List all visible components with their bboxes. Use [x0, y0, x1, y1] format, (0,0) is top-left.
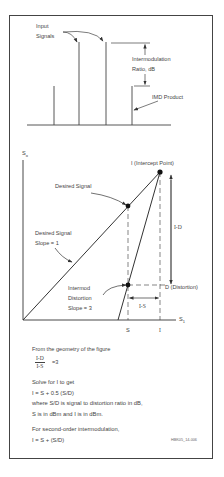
intermod-label-3: Slope = 3	[68, 305, 92, 312]
fraction-equals: =3	[52, 359, 58, 366]
geometry-text: From the geometry of the figure	[32, 346, 110, 353]
fraction-numerator: I-D	[35, 355, 45, 363]
input-signals-arrow-1	[63, 32, 77, 42]
x-tick-i: I	[159, 327, 161, 334]
input-signals-label-2: Signals	[36, 33, 54, 40]
ratio-label-2: Ratio, dB	[132, 66, 155, 73]
slope1-callout	[55, 248, 72, 262]
desired-signal-callout	[91, 193, 126, 205]
intermod-label: Intermod	[68, 285, 90, 292]
figure-code: HBK05_14-006	[171, 438, 197, 442]
formula-second-order: I = S + (S/D)	[32, 435, 64, 446]
spectrum-plot	[27, 31, 171, 125]
i-minus-s-label: I-S	[139, 303, 146, 310]
x-axis-label: S1	[179, 316, 185, 325]
x-tick-s: S	[126, 327, 130, 334]
second-order-text: For second-order intermodulation,	[32, 424, 119, 435]
desired-signal-label: Desired Signal	[55, 183, 91, 190]
intermod-label-2: Distortion	[68, 295, 92, 302]
solve-text: Solve for I to get	[32, 377, 74, 388]
imd-product-label: IMD Product	[152, 94, 183, 101]
ratio-label: Intermodulation	[132, 56, 171, 63]
y-axis-label: So	[22, 150, 28, 159]
intermod-callout	[103, 285, 126, 295]
input-signals-arrow-2	[63, 31, 103, 41]
desired-slope-label: Desired Signal	[35, 230, 71, 237]
imd-product-arrow	[134, 101, 158, 110]
i-minus-d-label: I-D	[174, 224, 182, 231]
units-text: S is in dBm and I is in dBm.	[32, 409, 103, 420]
formula-third-order: I = S + 0.5 (S/D)	[32, 388, 74, 399]
where-text: where S/D is signal to distortion ratio …	[32, 398, 143, 409]
desired-slope-label-2: Slope = 1	[35, 240, 59, 247]
distortion-label: D (Distortion)	[165, 284, 198, 291]
fraction: I-D I-S	[35, 355, 45, 370]
input-signals-label: Input	[36, 23, 48, 30]
intercept-label: I (Intercept Point)	[131, 160, 174, 167]
fraction-denominator: I-S	[35, 363, 45, 370]
intercept-point	[157, 169, 162, 174]
intermod-point	[126, 283, 131, 288]
desired-signal-point	[126, 204, 131, 209]
